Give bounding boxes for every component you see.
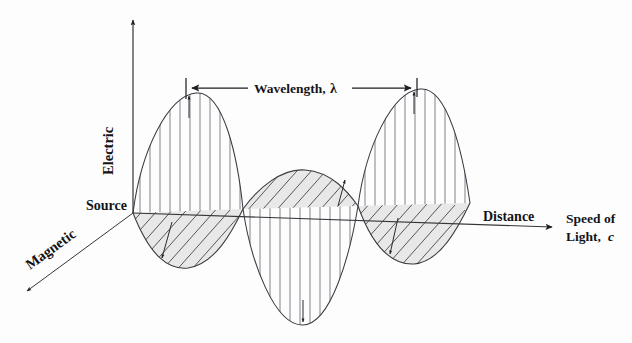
electric-axis-label: Electric — [100, 126, 116, 175]
electric-lobe-1 — [133, 60, 243, 330]
speed-of-light-symbol: c — [608, 229, 614, 244]
speed-of-light-label-line1: Speed of — [566, 211, 616, 226]
wavelength-lambda-symbol: λ — [330, 81, 337, 96]
em-wave-diagram: Wavelength, λ Electric Magnetic Source D… — [0, 0, 632, 343]
source-label: Source — [86, 198, 127, 213]
em-wave-figure: Wavelength, λ Electric Magnetic Source D… — [0, 0, 632, 343]
vertical-hatch — [140, 60, 240, 330]
speed-of-light-label-line2: Light, — [566, 229, 601, 244]
magnetic-axis-label: Magnetic — [22, 225, 79, 272]
vertical-hatch — [365, 60, 465, 330]
distance-axis-label: Distance — [483, 209, 534, 224]
wavelength-label: Wavelength, — [254, 81, 326, 96]
electric-lobe-3 — [358, 60, 470, 330]
wavelength-dimension: Wavelength, λ — [186, 78, 417, 99]
